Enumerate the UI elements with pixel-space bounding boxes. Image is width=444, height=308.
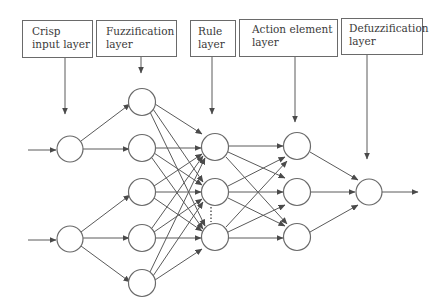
rule-node-1 (202, 134, 229, 161)
crisp-input-layer-label: Crisp input layer (22, 20, 93, 58)
label-line: layer (252, 36, 337, 49)
defuzz-node (356, 179, 382, 205)
label-line: layer (198, 38, 235, 51)
rule-node-2 (202, 179, 229, 206)
fuzzification-layer-label: Fuzzification layer (96, 20, 177, 57)
crisp-node-2 (57, 226, 83, 252)
action-element-layer-label: Action element layer (239, 19, 338, 57)
label-line: layer (106, 38, 176, 51)
rule-to-action-edges (226, 146, 287, 238)
label-line: Defuzzification (349, 22, 422, 35)
rule-node-3 (202, 224, 229, 251)
label-line: layer (349, 35, 422, 48)
action-node-1 (284, 133, 311, 160)
crisp-node-1 (57, 136, 83, 162)
label-line: Fuzzification (106, 25, 176, 38)
rule-layer-label: Rule layer (190, 20, 236, 57)
fuzz-node-3 (129, 179, 156, 206)
defuzzification-layer-label: Defuzzification layer (341, 18, 423, 55)
label-line: Rule (198, 25, 235, 38)
action-node-3 (284, 224, 311, 251)
fuzz-node-4 (129, 225, 156, 252)
label-line: Action element (252, 23, 337, 36)
fuzz-node-5 (129, 270, 156, 297)
fuzz-to-rule-edges (150, 104, 205, 280)
fuzz-node-1 (129, 89, 156, 116)
label-line: input layer (32, 38, 92, 51)
label-line: Crisp (32, 25, 92, 38)
action-node-2 (284, 179, 311, 206)
fuzz-node-2 (129, 135, 156, 162)
